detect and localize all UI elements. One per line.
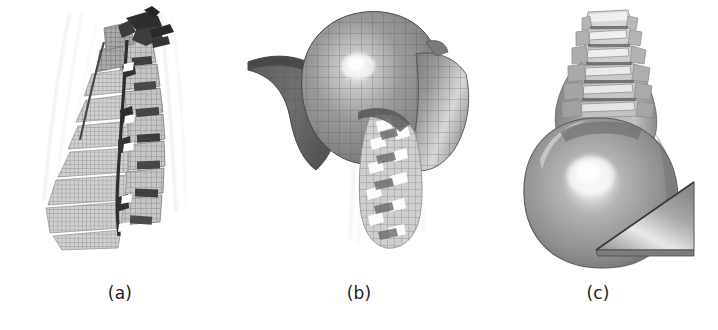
panel-a-caption: (a) <box>0 282 240 304</box>
panel-c-caption: (c) <box>478 282 718 304</box>
panel-a-render <box>0 0 240 278</box>
figure-panel-b: (b) <box>240 0 478 330</box>
panel-a-svg <box>0 0 240 278</box>
panel-c-svg <box>478 0 718 278</box>
figure-panel-c: (c) <box>478 0 718 330</box>
panel-b-cervical-spine <box>359 114 422 248</box>
figure-panel-a: (a) <box>0 0 240 330</box>
panel-b-caption: (b) <box>240 282 478 304</box>
figure-container: (a) <box>0 0 718 330</box>
panel-b-render <box>240 0 478 278</box>
panel-c-render <box>478 0 718 278</box>
panel-b-svg <box>240 0 478 278</box>
